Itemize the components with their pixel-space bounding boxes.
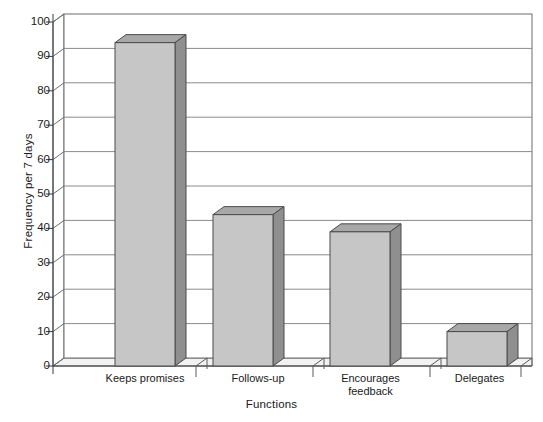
- x-category-delegates: Delegates: [432, 372, 527, 385]
- plot-area: 100 90 80 70 60 50 40 30 20 10 0 Keeps p…: [0, 0, 543, 422]
- x-category-follows-up: Follows-up: [208, 372, 308, 385]
- plot-3d-frame: [0, 0, 543, 422]
- y-tick-30: 30: [10, 257, 50, 268]
- x-axis-title: Functions: [0, 398, 543, 410]
- y-tick-10: 10: [10, 326, 50, 337]
- y-tick-40: 40: [10, 222, 50, 233]
- y-tick-80: 80: [10, 85, 50, 96]
- y-tick-70: 70: [10, 119, 50, 130]
- x-category-keeps-promises: Keeps promises: [90, 372, 200, 385]
- y-tick-50: 50: [10, 188, 50, 199]
- bar-delegates: [447, 324, 518, 366]
- y-tick-90: 90: [10, 50, 50, 61]
- x-category-encourages-feedback-line1: Encourages: [318, 372, 423, 385]
- bar-follows-up: [213, 207, 284, 366]
- y-tick-0: 0: [10, 360, 50, 371]
- y-tick-20: 20: [10, 291, 50, 302]
- bar-keeps-promises: [115, 35, 186, 366]
- bar-encourages-feedback: [330, 224, 401, 366]
- x-category-encourages-feedback: Encourages feedback: [318, 372, 423, 397]
- y-tick-100: 100: [10, 16, 50, 27]
- y-tick-60: 60: [10, 154, 50, 165]
- chart-figure: Frequency per 7 days: [0, 0, 543, 422]
- x-category-encourages-feedback-line2: feedback: [318, 385, 423, 398]
